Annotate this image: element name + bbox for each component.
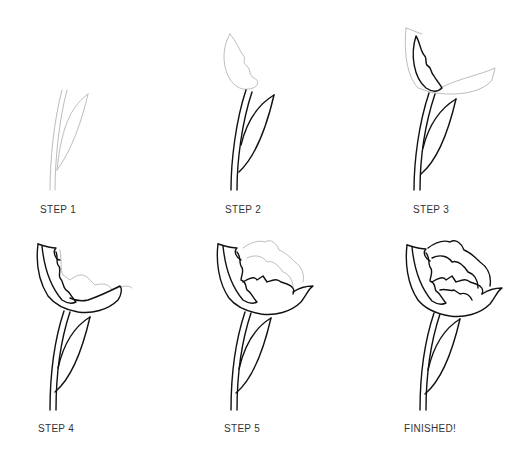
step-4-drawing	[0, 230, 175, 465]
step-4-panel: STEP 4	[0, 230, 175, 465]
step-4-label: STEP 4	[38, 423, 74, 434]
step-1-drawing	[0, 0, 175, 230]
step-5-drawing	[175, 230, 350, 465]
step-5-panel: STEP 5	[175, 230, 350, 465]
step-1-panel: STEP 1	[0, 0, 175, 230]
step-3-panel: STEP 3	[350, 0, 525, 230]
step-3-label: STEP 3	[413, 204, 449, 215]
step-2-drawing	[175, 0, 350, 230]
step-2-panel: STEP 2	[175, 0, 350, 230]
finished-panel: FINISHED!	[350, 230, 525, 465]
step-1-label: STEP 1	[40, 204, 76, 215]
finished-label: FINISHED!	[404, 423, 456, 434]
step-5-label: STEP 5	[224, 423, 260, 434]
step-3-drawing	[350, 0, 525, 230]
step-2-label: STEP 2	[225, 204, 261, 215]
